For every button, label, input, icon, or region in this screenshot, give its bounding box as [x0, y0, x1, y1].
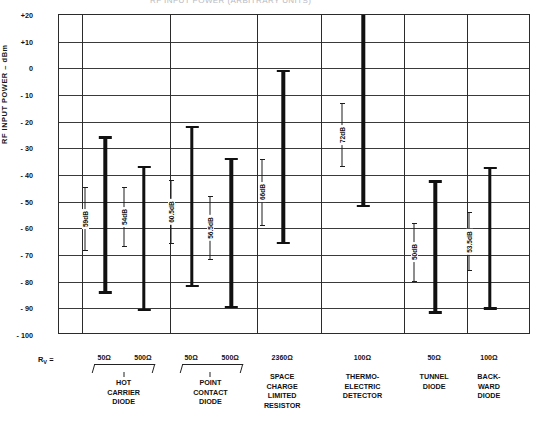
- rv-value: 500Ω: [134, 354, 151, 361]
- gridline: [59, 255, 529, 256]
- y-tick-label: 0: [0, 64, 33, 73]
- group-name: BACK-WARDDIODE: [477, 372, 500, 401]
- gridline: [59, 228, 529, 229]
- span-annotation: 56.5dB: [210, 196, 211, 260]
- span-annotation-label: 66dB: [259, 182, 266, 202]
- range-bar: [281, 70, 284, 245]
- rv-value: 100Ω: [354, 354, 371, 361]
- gridline: [59, 148, 529, 149]
- range-bar: [190, 126, 193, 287]
- range-bar-bottom-cap: [357, 205, 370, 207]
- span-annotation-bottom-tick: [208, 259, 213, 260]
- gridline: [59, 68, 529, 69]
- span-annotation-top-tick: [412, 223, 417, 224]
- group-name-line: POINT: [193, 378, 228, 388]
- y-tick-label: +20: [0, 11, 33, 20]
- y-tick-label: - 80: [0, 277, 33, 286]
- span-annotation-label: 54dB: [121, 207, 128, 227]
- y-tick-label: - 40: [0, 171, 33, 180]
- range-bar-top-cap: [225, 158, 238, 160]
- span-annotation-bottom-tick: [340, 166, 345, 167]
- span-annotation-top-tick: [122, 187, 127, 188]
- span-annotation-label: 56.5dB: [207, 216, 214, 242]
- y-tick-label: - 60: [0, 224, 33, 233]
- group-brace-tick: [210, 372, 211, 377]
- span-annotation-top-tick: [169, 180, 174, 181]
- y-tick-label: - 30: [0, 144, 33, 153]
- span-annotation-bottom-tick: [169, 243, 174, 244]
- group-name-line: TUNNEL: [420, 372, 449, 382]
- gridline: [59, 95, 529, 96]
- group-name: HOTCARRIERDIODE: [107, 378, 140, 407]
- range-bar: [104, 136, 107, 293]
- group-brace: [179, 364, 243, 373]
- span-annotation: 72dB: [342, 103, 343, 167]
- span-annotation-top-tick: [340, 103, 345, 104]
- rv-value: 50Ω: [184, 354, 197, 361]
- range-bar: [362, 15, 365, 207]
- y-tick-label: - 100: [0, 331, 33, 340]
- range-bar-bottom-cap: [277, 242, 290, 244]
- range-bar-bottom-cap: [99, 291, 112, 293]
- group-name: THERMO-ELECTRICDETECTOR: [343, 372, 382, 401]
- gridline: [59, 42, 529, 43]
- figure-root: RF INPUT POWER (ARBITRARY UNITS) RF INPU…: [0, 0, 550, 430]
- gridline: [59, 202, 529, 203]
- span-annotation-bottom-tick: [412, 281, 417, 282]
- range-bar-top-cap: [429, 180, 442, 182]
- group-name-line: WARD: [477, 382, 500, 392]
- group-separator: [170, 15, 171, 333]
- y-tick-label: - 90: [0, 304, 33, 313]
- group-name-line: DIODE: [193, 397, 228, 407]
- span-annotation-label: 50dB: [411, 242, 418, 262]
- group-separator: [321, 15, 322, 333]
- range-bar: [488, 167, 491, 310]
- span-annotation-top-tick: [83, 187, 88, 188]
- rv-equals: =: [47, 355, 53, 364]
- group-separator: [404, 15, 405, 333]
- y-tick-label: - 10: [0, 91, 33, 100]
- span-annotation-label: 59dB: [82, 209, 89, 229]
- plot-area: +20+100- 10- 20- 30- 40- 50- 60- 70- 80-…: [58, 14, 530, 334]
- group-separator: [257, 15, 258, 333]
- range-bar: [433, 180, 436, 313]
- group-name: TUNNELDIODE: [420, 372, 449, 391]
- y-tick-label: +10: [0, 37, 33, 46]
- range-bar: [230, 158, 233, 309]
- y-tick-label: - 70: [0, 251, 33, 260]
- span-annotation-bottom-tick: [122, 246, 127, 247]
- group-name-line: HOT: [107, 378, 140, 388]
- rv-value: 2360Ω: [272, 354, 293, 361]
- span-annotation: 54dB: [123, 187, 124, 247]
- rv-value: 50Ω: [98, 354, 111, 361]
- rv-axis-label: RV =: [38, 355, 53, 365]
- range-bar-bottom-cap: [225, 306, 238, 308]
- range-bar-top-cap: [483, 167, 496, 169]
- rv-value: 500Ω: [222, 354, 239, 361]
- gridline: [59, 282, 529, 283]
- group-name-line: CARRIER: [107, 388, 140, 398]
- span-annotation-bottom-tick: [260, 225, 265, 226]
- range-bar-bottom-cap: [429, 311, 442, 313]
- rv-value: 50Ω: [427, 354, 440, 361]
- gridline: [59, 308, 529, 309]
- group-name-line: DIODE: [477, 391, 500, 401]
- gridline: [59, 122, 529, 123]
- group-name: SPACECHARGELIMITEDRESISTOR: [264, 372, 301, 410]
- group-name-line: RESISTOR: [264, 401, 301, 411]
- range-bar-top-cap: [99, 136, 112, 138]
- group-name-line: ELECTRIC: [343, 382, 382, 392]
- group-name-line: CONTACT: [193, 388, 228, 398]
- group-brace-tick: [123, 372, 124, 377]
- span-annotation: 50dB: [414, 223, 415, 282]
- span-annotation-label: 60.5dB: [168, 200, 175, 226]
- group-name-line: THERMO-: [343, 372, 382, 382]
- range-bar-top-cap: [186, 126, 199, 128]
- span-annotation-label: 53.5dB: [466, 229, 473, 255]
- span-annotation-bottom-tick: [83, 250, 88, 251]
- y-tick-label: - 50: [0, 197, 33, 206]
- span-annotation: 59dB: [85, 187, 86, 251]
- group-name-line: CHARGE: [264, 382, 301, 392]
- range-bar-bottom-cap: [137, 309, 150, 311]
- range-bar-bottom-cap: [186, 285, 199, 287]
